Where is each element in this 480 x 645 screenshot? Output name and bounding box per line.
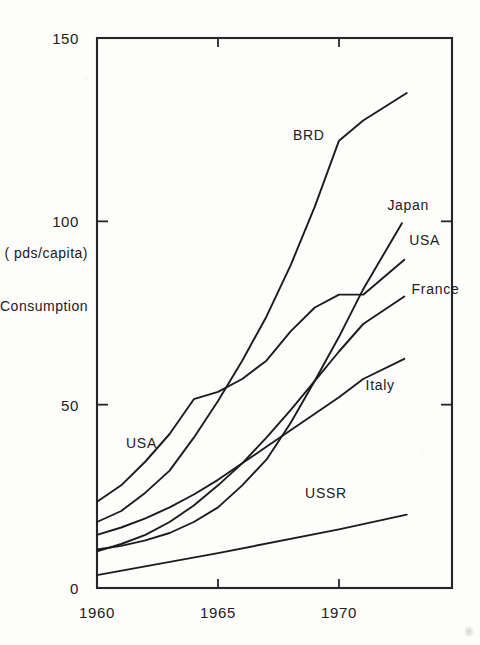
series-label-brd: BRD: [293, 127, 325, 143]
series-line-japan: [97, 223, 402, 549]
x-axis-ticks: [218, 38, 339, 588]
x-tick-label: 1970: [321, 604, 357, 621]
y-tick-label: 50: [61, 397, 79, 414]
series-lines-group: [97, 93, 407, 575]
chart-figure: 196019651970 050100150 ( pds/capita) Con…: [0, 0, 480, 645]
series-line-france: [97, 297, 404, 552]
series-line-usa: [97, 260, 404, 502]
scan-smudge-artifact: [465, 626, 474, 637]
series-label-ussr: USSR: [305, 485, 347, 501]
series-line-ussr: [97, 515, 407, 576]
consumption-line-chart: 196019651970 050100150 ( pds/capita) Con…: [0, 0, 480, 645]
y-axis-units-label: ( pds/capita): [4, 245, 88, 261]
x-tick-label: 1960: [79, 604, 115, 621]
y-axis-title-label: Consumption: [0, 298, 88, 314]
series-label-japan: Japan: [387, 197, 429, 213]
series-label-usa: USA: [409, 232, 440, 248]
y-axis-ticks: [97, 221, 452, 404]
series-label-usa-lower-label: USA: [126, 435, 157, 451]
series-label-italy: Italy: [366, 377, 395, 393]
y-tick-label: 150: [52, 30, 79, 47]
x-axis-tick-labels: 196019651970: [79, 604, 357, 621]
y-tick-label: 100: [52, 213, 79, 230]
plot-frame: [97, 38, 452, 588]
series-label-france: France: [412, 281, 460, 297]
y-tick-label: 0: [70, 580, 79, 597]
x-tick-label: 1965: [200, 604, 236, 621]
series-labels-group: BRDJapanUSAFranceItalyUSSRUSA: [126, 127, 459, 501]
